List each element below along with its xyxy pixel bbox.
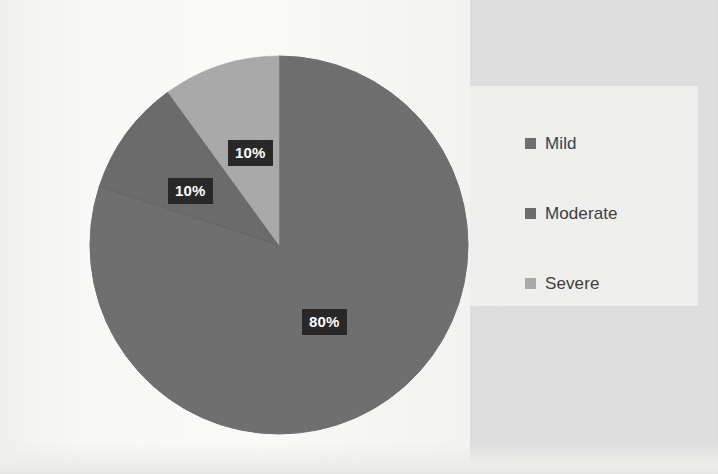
chart-legend: Mild Moderate Severe (525, 108, 690, 318)
pie-chart-plot-area: 10% 10% 80% (0, 0, 500, 474)
legend-item-mild[interactable]: Mild (525, 108, 690, 178)
data-label-severe: 10% (228, 140, 273, 166)
data-label-mild: 80% (302, 309, 347, 335)
legend-swatch-mild-icon (525, 138, 536, 149)
pie-chart-svg (0, 0, 500, 474)
legend-swatch-severe-icon (525, 278, 536, 289)
legend-label-moderate: Moderate (545, 205, 618, 222)
legend-swatch-moderate-icon (525, 208, 536, 219)
data-label-moderate: 10% (168, 178, 213, 204)
pie-chart-figure: 10% 10% 80% Mild Moderate Severe (0, 0, 718, 474)
legend-item-severe[interactable]: Severe (525, 248, 690, 318)
legend-item-moderate[interactable]: Moderate (525, 178, 690, 248)
legend-label-severe: Severe (545, 275, 599, 292)
legend-label-mild: Mild (545, 135, 577, 152)
